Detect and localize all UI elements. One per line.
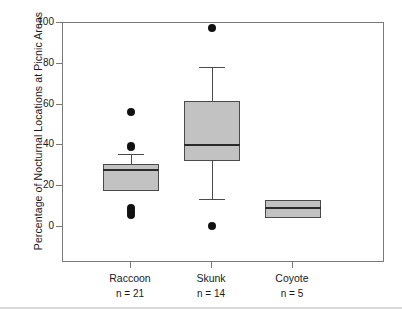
whisker-cap-upper <box>199 67 225 68</box>
x-sample-size-label: n = 5 <box>247 288 337 299</box>
median-line <box>103 169 159 171</box>
whisker-upper <box>131 154 132 164</box>
whisker-cap-lower <box>199 199 225 200</box>
box-rect <box>184 101 240 161</box>
outlier-point <box>127 142 135 150</box>
y-tick-label: 100 <box>14 16 54 27</box>
x-category-label: Raccoon <box>85 272 175 284</box>
box-rect <box>265 200 321 217</box>
box-rect <box>103 164 159 192</box>
x-category-label: Coyote <box>247 272 337 284</box>
x-tick-mark <box>130 262 131 268</box>
y-tick-label: 60 <box>14 98 54 109</box>
outlier-point <box>127 108 135 116</box>
x-sample-size-label: n = 21 <box>85 288 175 299</box>
y-tick-label: 0 <box>14 220 54 231</box>
whisker-cap-upper <box>118 154 144 155</box>
y-tick-label: 80 <box>14 57 54 68</box>
y-tick-label: 20 <box>14 179 54 190</box>
x-category-label: Skunk <box>166 272 256 284</box>
outlier-point <box>127 211 135 219</box>
chart-page: Percentage of Nocturnal Locations at Pic… <box>0 0 402 309</box>
whisker-upper <box>212 67 213 101</box>
x-tick-mark <box>211 262 212 268</box>
median-line <box>184 144 240 146</box>
median-line <box>265 207 321 209</box>
y-tick-label: 40 <box>14 138 54 149</box>
plot-area <box>62 22 384 262</box>
whisker-lower <box>212 161 213 200</box>
x-sample-size-label: n = 14 <box>166 288 256 299</box>
y-axis-title: Percentage of Nocturnal Locations at Pic… <box>32 11 44 251</box>
outlier-point <box>208 24 216 32</box>
outlier-point <box>208 222 216 230</box>
x-tick-mark <box>292 262 293 268</box>
